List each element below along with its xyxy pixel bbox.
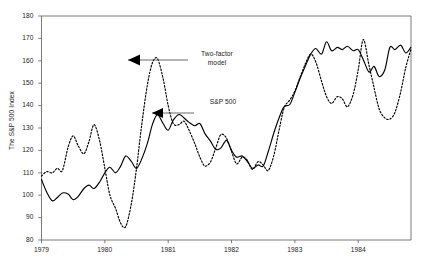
series-line-two-factor [42,40,411,228]
x-tick-label: 1983 [275,246,315,253]
y-tick-label: 80 [14,236,34,243]
x-tick-label: 1980 [85,246,125,253]
annotation-two-factor-model: Two-factor model [190,50,244,67]
chart-figure: The S&P 500 Index Two-factor model S&P 5… [0,0,425,270]
x-tick-label: 1982 [212,246,252,253]
annotation-sp500: S&P 500 [196,98,250,107]
y-tick-label: 160 [14,57,34,64]
y-tick-label: 100 [14,191,34,198]
sp500-two-factor-line-chart [0,0,425,270]
x-axis-ticks [42,240,359,243]
y-tick-label: 180 [14,12,34,19]
y-tick-label: 130 [14,124,34,131]
x-tick-label: 1984 [338,246,378,253]
y-axis-ticks [38,16,41,240]
y-tick-label: 140 [14,101,34,108]
y-tick-label: 170 [14,34,34,41]
y-tick-label: 120 [14,146,34,153]
y-tick-label: 110 [14,169,34,176]
y-tick-label: 90 [14,213,34,220]
y-tick-label: 150 [14,79,34,86]
arrow-two-factor-icon [128,55,188,66]
arrow-sp500-icon [152,108,194,118]
x-tick-label: 1981 [148,246,188,253]
x-tick-label: 1979 [22,246,62,253]
